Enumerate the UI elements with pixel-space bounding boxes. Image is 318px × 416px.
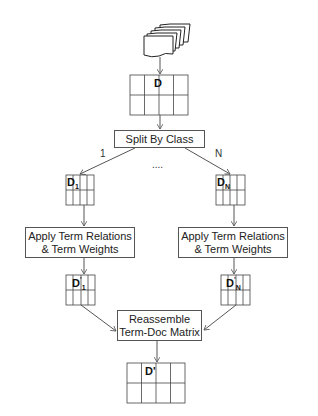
matrix-d1-prime-label: D'1 (72, 276, 86, 291)
arrow-dnp-to-reassemble (204, 305, 236, 330)
reassemble-line2: Term-Doc Matrix (119, 326, 200, 339)
matrix-d-prime-label: D' (145, 365, 156, 377)
apply-term-relations-right-box: Apply Term Relations & Term Weights (178, 227, 288, 258)
reassemble-line1: Reassemble (129, 313, 190, 326)
apply-right-line2: & Term Weights (194, 243, 271, 256)
split-by-class-box: Split By Class (114, 130, 205, 148)
reassemble-box: Reassemble Term-Doc Matrix (117, 310, 202, 341)
matrix-d-label: D (154, 77, 162, 89)
arrow-d1p-to-reassemble (81, 305, 116, 331)
apply-left-line2: & Term Weights (41, 243, 118, 256)
apply-right-line1: Apply Term Relations (181, 230, 285, 243)
matrix-dn-label: DN (217, 176, 230, 190)
diagram-canvas (0, 0, 318, 416)
apply-term-relations-left-box: Apply Term Relations & Term Weights (25, 227, 135, 258)
arrow-split-to-dn (185, 148, 230, 174)
arrow-split-to-d1 (80, 148, 135, 174)
matrix-d1-label: D1 (67, 176, 79, 190)
document-stack-icon (144, 24, 190, 57)
matrix-d-prime-grid (127, 363, 185, 403)
branch-label-1: 1 (100, 148, 106, 159)
split-by-class-label: Split By Class (126, 133, 194, 146)
apply-left-line1: Apply Term Relations (28, 230, 132, 243)
branch-label-n: N (215, 148, 222, 159)
branch-label-ellipsis: .... (152, 159, 163, 170)
matrix-dn-prime-label: D'N (226, 276, 241, 291)
